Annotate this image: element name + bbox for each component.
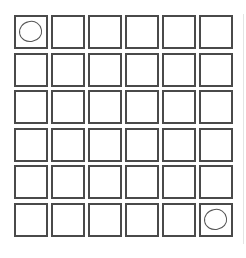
- board-edge-divider: [243, 14, 244, 244]
- board-cell-r1-c5[interactable]: [199, 53, 233, 87]
- board-cell-r1-c1[interactable]: [51, 53, 85, 87]
- board-cell-r5-c5[interactable]: [199, 203, 233, 237]
- board-cell-r2-c2[interactable]: [88, 90, 122, 124]
- board-cell-r4-c2[interactable]: [88, 165, 122, 199]
- board-cell-r3-c0[interactable]: [14, 128, 48, 162]
- board-cell-r4-c5[interactable]: [199, 165, 233, 199]
- board-cell-r0-c1[interactable]: [51, 15, 85, 49]
- board-cell-r4-c4[interactable]: [162, 165, 196, 199]
- board-cell-r4-c1[interactable]: [51, 165, 85, 199]
- board-cell-r0-c0[interactable]: [14, 15, 48, 49]
- board-cell-r5-c0[interactable]: [14, 203, 48, 237]
- board-cell-r5-c3[interactable]: [125, 203, 159, 237]
- board-cell-r3-c3[interactable]: [125, 128, 159, 162]
- board-cell-r5-c1[interactable]: [51, 203, 85, 237]
- circle-icon: [202, 207, 228, 232]
- board-cell-r3-c5[interactable]: [199, 128, 233, 162]
- board-cell-r3-c2[interactable]: [88, 128, 122, 162]
- board-cell-r4-c0[interactable]: [14, 165, 48, 199]
- game-board: [14, 15, 233, 237]
- board-cell-r3-c4[interactable]: [162, 128, 196, 162]
- board-cell-r1-c3[interactable]: [125, 53, 159, 87]
- board-cell-r0-c5[interactable]: [199, 15, 233, 49]
- board-cell-r2-c0[interactable]: [14, 90, 48, 124]
- board-cell-r1-c0[interactable]: [14, 53, 48, 87]
- board-cell-r0-c2[interactable]: [88, 15, 122, 49]
- circle-icon: [17, 19, 43, 44]
- board-cell-r5-c2[interactable]: [88, 203, 122, 237]
- board-cell-r4-c3[interactable]: [125, 165, 159, 199]
- board-cell-r0-c3[interactable]: [125, 15, 159, 49]
- board-cell-r0-c4[interactable]: [162, 15, 196, 49]
- board-cell-r2-c3[interactable]: [125, 90, 159, 124]
- board-cell-r2-c1[interactable]: [51, 90, 85, 124]
- board-cell-r1-c2[interactable]: [88, 53, 122, 87]
- board-cell-r5-c4[interactable]: [162, 203, 196, 237]
- board-cell-r2-c5[interactable]: [199, 90, 233, 124]
- board-cell-r2-c4[interactable]: [162, 90, 196, 124]
- board-cell-r1-c4[interactable]: [162, 53, 196, 87]
- board-cell-r3-c1[interactable]: [51, 128, 85, 162]
